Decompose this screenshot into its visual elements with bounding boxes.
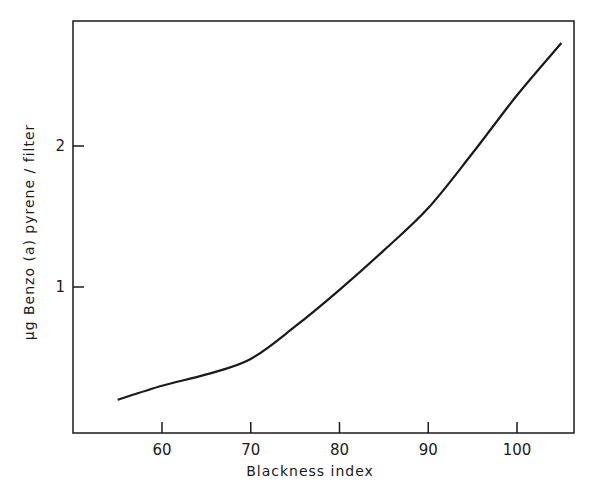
- x-axis-label: Blackness index: [246, 463, 374, 479]
- x-tick-label: 60: [152, 441, 171, 459]
- x-tick-label: 100: [503, 441, 532, 459]
- data-line: [118, 43, 562, 400]
- y-axis-ticks: 12: [55, 137, 84, 296]
- plot-frame: [73, 21, 574, 433]
- y-tick-label: 1: [55, 278, 65, 296]
- x-tick-label: 80: [330, 441, 349, 459]
- y-tick-label: 2: [55, 137, 65, 155]
- y-axis-label: μg Benzo (a) pyrene / filter: [21, 124, 37, 341]
- x-tick-label: 70: [241, 441, 260, 459]
- x-axis-ticks: 60708090100: [152, 422, 531, 459]
- chart: 60708090100 12 Blackness index μg Benzo …: [0, 0, 593, 501]
- x-tick-label: 90: [419, 441, 438, 459]
